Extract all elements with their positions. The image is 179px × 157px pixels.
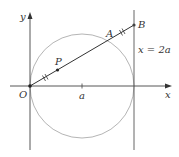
point-O	[28, 84, 32, 88]
x-axis-label: x	[165, 89, 171, 100]
x-axis-arrow-icon	[165, 84, 172, 89]
point-B	[132, 23, 135, 26]
origin-label: O	[19, 89, 27, 100]
point-B-label: B	[137, 19, 145, 30]
point-P-label: P	[54, 56, 62, 67]
point-P	[56, 68, 59, 71]
y-axis-label: y	[19, 11, 26, 22]
vertical-line-label: x = 2a	[138, 44, 171, 55]
point-A-label: A	[105, 28, 113, 39]
y-axis-arrow-icon	[28, 12, 33, 19]
a-tick-label: a	[79, 90, 85, 101]
geometry-diagram: y x O a P A B x = 2a	[0, 0, 179, 157]
